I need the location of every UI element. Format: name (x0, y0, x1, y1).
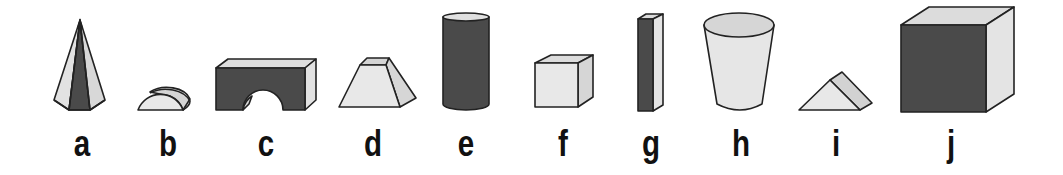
label-e: e (458, 124, 474, 164)
label-d: d (364, 124, 382, 164)
label-a: a (74, 124, 90, 164)
shape-d-frustum-icon (339, 58, 416, 107)
label-b: b (159, 124, 177, 164)
shape-c-arch-block-icon (216, 59, 316, 110)
label-h: h (732, 124, 750, 164)
label-i: i (832, 124, 840, 164)
label-c: c (258, 124, 274, 164)
shape-b-half-cylinder-icon (138, 87, 190, 110)
shape-a-pyramid-icon (54, 18, 105, 110)
shape-j-cube-icon (901, 7, 1014, 112)
label-j: j (947, 124, 955, 164)
label-f: f (558, 124, 568, 164)
shape-i-triangular-prism-icon (799, 72, 872, 110)
shape-e-cylinder-icon (443, 13, 489, 110)
shapes-figure: a b c d e f g h i j (0, 0, 1063, 175)
shape-f-cube-icon (535, 55, 593, 107)
shape-h-cup-icon (704, 13, 774, 110)
shape-g-tall-bar-icon (638, 14, 663, 111)
label-g: g (642, 124, 660, 164)
